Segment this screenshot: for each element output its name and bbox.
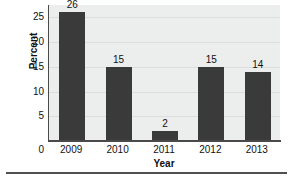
plot-area: 261521514 xyxy=(48,5,280,141)
bar-series: 261521514 xyxy=(49,5,280,141)
x-axis-title: Year xyxy=(48,158,280,170)
y-axis-tick-label: 20 xyxy=(22,37,44,47)
bar-slot: 14 xyxy=(235,5,281,141)
bar xyxy=(59,12,85,141)
bar xyxy=(106,67,132,141)
bar-chart-figure: Percent 510152025 261521514 0 2009201020… xyxy=(0,0,293,179)
x-axis-tick-label: 2009 xyxy=(48,143,94,156)
bar xyxy=(245,72,271,141)
bar-slot: 26 xyxy=(49,5,95,141)
y-axis-tick-label: 25 xyxy=(22,12,44,22)
x-axis-tick-label: 2011 xyxy=(141,143,187,156)
y-axis-tick-label: 10 xyxy=(22,87,44,97)
bottom-divider xyxy=(6,172,287,174)
bar-slot: 15 xyxy=(188,5,234,141)
y-axis-tick-label: 5 xyxy=(22,111,44,121)
bar-value-label: 15 xyxy=(113,54,124,65)
bar-slot: 15 xyxy=(95,5,141,141)
y-axis-tick-label: 15 xyxy=(22,62,44,72)
bar-value-label: 26 xyxy=(67,0,78,10)
bar-slot: 2 xyxy=(142,5,188,141)
y-axis-origin-label: 0 xyxy=(30,143,44,156)
bar-value-label: 2 xyxy=(162,118,168,129)
x-axis-tick-label: 2010 xyxy=(94,143,140,156)
bar-value-label: 15 xyxy=(206,54,217,65)
x-axis-tick-label: 2012 xyxy=(187,143,233,156)
x-axis-tick-labels: 20092010201120122013 xyxy=(48,143,280,157)
bar-value-label: 14 xyxy=(252,59,263,70)
x-axis-tick-label: 2013 xyxy=(234,143,280,156)
x-axis-line xyxy=(48,140,281,142)
bar xyxy=(198,67,224,141)
y-axis-tick-labels: 510152025 xyxy=(22,5,44,141)
